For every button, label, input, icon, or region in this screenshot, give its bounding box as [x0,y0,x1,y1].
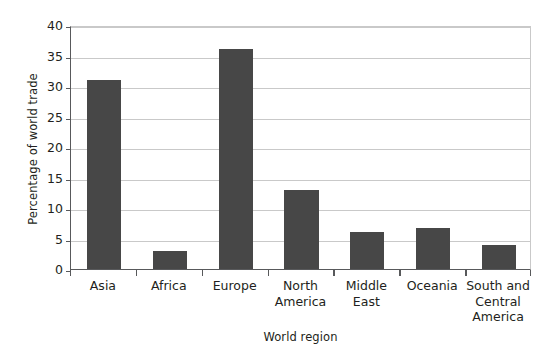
x-axis-tick-label-line: East [333,294,399,310]
x-axis-tick [333,270,334,276]
x-axis-tick-label: MiddleEast [333,278,399,309]
y-axis-tick-label: 5 [30,234,63,246]
x-axis-ticks [70,270,531,276]
x-axis-tick [465,270,466,276]
x-axis-tick-label-line: Central [465,294,531,310]
x-axis-tick-label: NorthAmerica [268,278,334,309]
plot-area [70,26,531,270]
y-axis-tick-label: 15 [30,173,63,185]
y-axis-tick-label: 0 [30,264,63,276]
bars-layer [71,27,530,269]
x-axis-tick [268,270,269,276]
x-axis-title: World region [70,330,531,344]
x-axis-tick-label-line: Europe [202,278,268,294]
bar [482,245,516,269]
x-axis-tick-label: Africa [136,278,202,294]
x-axis-tick [70,270,71,276]
x-axis-tick-label-line: Asia [70,278,136,294]
bar [219,49,253,269]
y-axis-tick-label: 20 [30,142,63,154]
x-axis-tick-label-line: Middle [333,278,399,294]
x-axis-tick [136,270,137,276]
bar [153,251,187,269]
x-axis-tick-label: Europe [202,278,268,294]
x-axis-tick-label-line: Africa [136,278,202,294]
x-axis-tick-label: Oceania [399,278,465,294]
x-axis-tick-label: Asia [70,278,136,294]
y-axis-tick-label: 35 [30,51,63,63]
x-axis-tick-label-line: America [465,309,531,325]
y-axis-tick-label: 25 [30,112,63,124]
bar [87,80,121,269]
x-axis-tick-label-line: South and [465,278,531,294]
y-axis-tick-label: 10 [30,203,63,215]
bar [350,232,384,269]
x-axis-tick-labels: AsiaAfricaEuropeNorthAmericaMiddleEastOc… [70,278,531,330]
bar-chart-figure: Percentage of world trade 05101520253035… [0,0,553,357]
x-axis-tick-label: South andCentralAmerica [465,278,531,325]
x-axis-tick [399,270,400,276]
x-axis-tick-label-line: America [268,294,334,310]
x-axis-tick-label-line: Oceania [399,278,465,294]
bar [416,228,450,269]
y-axis-tick-label: 40 [30,20,63,32]
bar [284,190,318,269]
x-axis-tick [530,270,531,276]
y-axis-tick-labels: 0510152025303540 [30,26,63,270]
x-axis-tick [202,270,203,276]
y-axis-tick-label: 30 [30,81,63,93]
x-axis-tick-label-line: North [268,278,334,294]
